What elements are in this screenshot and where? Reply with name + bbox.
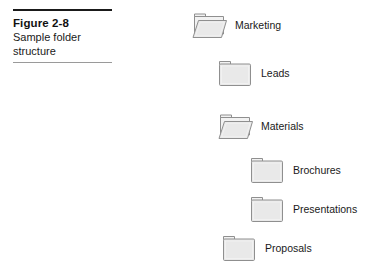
folder-tree: MarketingLeadsMaterialsBrochuresPresenta… [0,0,375,271]
folder-row[interactable]: Marketing [192,9,281,41]
folder-open-icon[interactable] [218,111,254,141]
folder-label: Brochures [293,164,341,176]
folder-row[interactable]: Presentations [250,193,357,225]
folder-label: Leads [261,67,290,79]
folder-closed-icon[interactable] [250,194,286,224]
folder-label: Marketing [235,19,281,31]
folder-row[interactable]: Brochures [250,154,341,186]
folder-closed-icon[interactable] [250,155,286,185]
folder-label: Materials [261,120,304,132]
figure-page: Figure 2-8 Sample folder structure Marke… [0,0,375,271]
folder-open-icon[interactable] [192,10,228,40]
folder-row[interactable]: Materials [218,110,304,142]
folder-row[interactable]: Proposals [222,232,312,264]
folder-closed-icon[interactable] [222,233,258,263]
folder-row[interactable]: Leads [218,57,290,89]
folder-label: Proposals [265,242,312,254]
folder-closed-icon[interactable] [218,58,254,88]
folder-label: Presentations [293,203,357,215]
